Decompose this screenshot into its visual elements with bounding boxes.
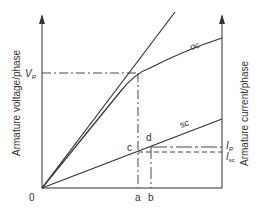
origin-label: 0: [29, 192, 35, 203]
point-d-label: d: [146, 132, 152, 143]
right-axis-arrow-icon: [219, 14, 225, 24]
diagram-canvas: Armature voltage/phase Armature current/…: [0, 0, 261, 216]
oc-label: oc: [189, 40, 201, 52]
sc-label: sc: [179, 117, 191, 129]
left-axis-arrow-icon: [39, 14, 45, 24]
air-gap-line: [42, 12, 175, 188]
point-b-label: b: [148, 192, 154, 203]
y-left-label: Armature voltage/phase: [11, 49, 22, 156]
point-c-label: c: [127, 142, 132, 153]
oc-curve: [42, 38, 222, 188]
point-a-label: a: [135, 192, 141, 203]
y-right-label: Armature current/phase: [239, 61, 250, 166]
characteristic-diagram: Armature voltage/phase Armature current/…: [0, 0, 261, 216]
isc-label: Isc: [226, 151, 235, 163]
vr-label: VR: [25, 68, 37, 80]
sc-line: [42, 119, 222, 188]
